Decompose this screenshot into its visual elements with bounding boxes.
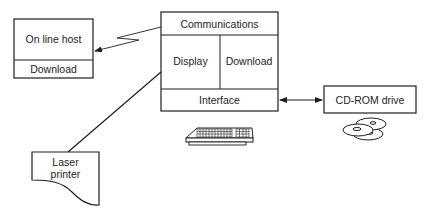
comms-link-arrow (95, 27, 161, 51)
online-host-download: Download (14, 63, 93, 75)
cdrom-label: CD-ROM drive (324, 94, 416, 106)
display-label: Display (161, 55, 220, 67)
cd-discs-icon (343, 118, 386, 140)
keyboard-icon (186, 128, 253, 145)
interface-label: Interface (161, 94, 278, 106)
printer-label-line1: Laser (32, 156, 99, 168)
system-diagram: On line host Download Communications Dis… (0, 0, 433, 215)
printer-link (68, 72, 161, 152)
online-host-title: On line host (14, 33, 93, 45)
computer-download-label: Download (220, 55, 278, 67)
printer-label-line2: printer (32, 168, 99, 180)
communications-label: Communications (161, 18, 278, 30)
